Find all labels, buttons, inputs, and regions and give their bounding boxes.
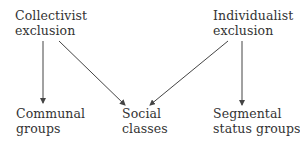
node-label-line1: Individualist: [213, 8, 293, 23]
node-label-line2: status groups: [213, 121, 300, 136]
edge-individualist-to-social: [150, 41, 228, 105]
diagram-canvas: Collectivist exclusion Individualist exc…: [0, 0, 300, 149]
node-individualist-exclusion: Individualist exclusion: [213, 8, 293, 38]
edge-collectivist-to-social: [59, 41, 125, 105]
node-label-line1: Collectivist: [15, 8, 87, 23]
node-social-classes: Social classes: [122, 106, 168, 136]
node-label-line2: exclusion: [213, 23, 293, 38]
node-label-line2: groups: [16, 121, 85, 136]
node-label-line2: classes: [122, 121, 168, 136]
node-label-line2: exclusion: [15, 23, 87, 38]
node-segmental-status-groups: Segmental status groups: [213, 106, 300, 136]
node-label-line1: Communal: [16, 106, 85, 121]
node-communal-groups: Communal groups: [16, 106, 85, 136]
node-collectivist-exclusion: Collectivist exclusion: [15, 8, 87, 38]
node-label-line1: Social: [122, 106, 168, 121]
node-label-line1: Segmental: [213, 106, 300, 121]
